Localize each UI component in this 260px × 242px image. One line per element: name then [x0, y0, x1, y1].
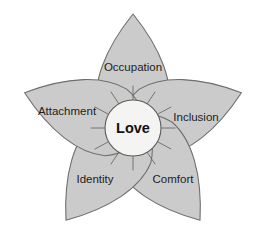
flower-diagram-svg: Occupation Inclusion Comfort Identity At…	[0, 0, 260, 242]
petal-label-comfort: Comfort	[153, 173, 195, 185]
petal-label-occupation: Occupation	[104, 61, 162, 73]
flower-diagram-canvas: Occupation Inclusion Comfort Identity At…	[0, 0, 260, 242]
petal-label-identity: Identity	[76, 173, 113, 185]
petal-label-inclusion: Inclusion	[173, 111, 218, 123]
center-label-love: Love	[116, 120, 150, 136]
petal-label-attachment: Attachment	[38, 105, 97, 117]
